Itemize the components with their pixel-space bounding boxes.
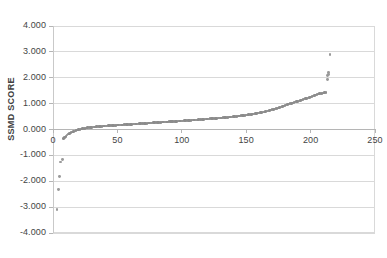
x-tick-label: 0 [38, 136, 68, 145]
y-tick-mark [49, 51, 53, 52]
y-tick-label-wrap: -3.000 [0, 202, 46, 211]
gridline-y-1000 [53, 103, 375, 104]
x-tick-mark [246, 129, 247, 133]
x-tick-label: 250 [360, 136, 387, 145]
y-tick-mark [49, 207, 53, 208]
y-tick-mark [49, 103, 53, 104]
y-tick-label-wrap: 4.000 [0, 21, 46, 30]
y-tick-mark [49, 155, 53, 156]
x-tick-mark [117, 129, 118, 133]
y-tick-label: -4.000 [2, 228, 46, 237]
y-tick-mark [49, 181, 53, 182]
x-tick-label: 50 [102, 136, 132, 145]
y-tick-label: -1.000 [2, 150, 46, 159]
x-tick-label: 200 [296, 136, 326, 145]
y-tick-mark [49, 233, 53, 234]
gridline-y-1000 [53, 155, 375, 156]
y-tick-label: 3.000 [2, 47, 46, 56]
y-tick-label-wrap: -4.000 [0, 228, 46, 237]
x-tick-label: 100 [167, 136, 197, 145]
y-tick-mark [49, 26, 53, 27]
x-tick-mark [181, 129, 182, 133]
x-tick-mark [53, 129, 54, 133]
x-tick-mark [375, 129, 376, 133]
y-tick-label-wrap: -1.000 [0, 150, 46, 159]
y-tick-label: 4.000 [2, 21, 46, 30]
ssmd-score-scatter-chart: 4.0003.0002.0001.0000.000-1.000-2.000-3.… [0, 0, 387, 258]
y-tick-label-wrap: 3.000 [0, 47, 46, 56]
y-tick-label: -3.000 [2, 202, 46, 211]
gridline-y-4000 [53, 26, 375, 27]
x-tick-label: 150 [231, 136, 261, 145]
y-tick-mark [49, 77, 53, 78]
x-tick-mark [310, 129, 311, 133]
gridline-y-3000 [53, 51, 375, 52]
y-tick-label: -2.000 [2, 176, 46, 185]
category-axis-line [53, 129, 375, 130]
y-axis-title: SSMD SCORE [6, 69, 16, 149]
gridline-y-2000 [53, 181, 375, 182]
gridline-y-2000 [53, 77, 375, 78]
gridline-y-3000 [53, 207, 375, 208]
y-tick-label-wrap: -2.000 [0, 176, 46, 185]
gridline-y-4000 [53, 233, 375, 234]
